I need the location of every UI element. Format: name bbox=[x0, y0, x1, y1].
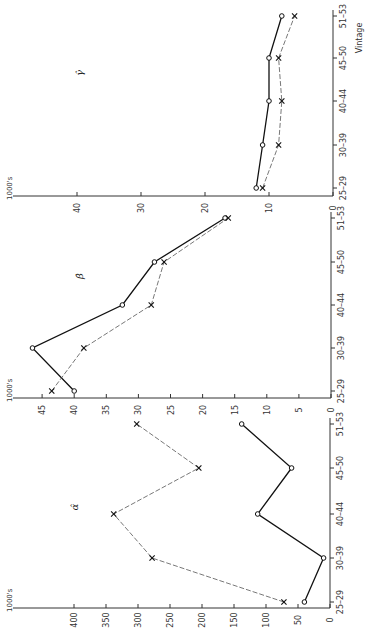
vintage-tick-label: 25–29 bbox=[336, 590, 345, 614]
circle-marker-icon bbox=[120, 303, 125, 308]
value-tick-label: 10 bbox=[265, 203, 274, 213]
x-marker-icon bbox=[111, 511, 116, 516]
vintage-tick-label: 51–53 bbox=[337, 206, 346, 230]
circle-marker-icon bbox=[260, 143, 265, 148]
rotated-line-chart-figure: 0102030401000's25–2930–3940–4445–5051–53… bbox=[0, 0, 367, 637]
value-tick-label: 100 bbox=[262, 612, 271, 627]
value-tick-label: 300 bbox=[134, 612, 143, 627]
circle-marker-icon bbox=[255, 512, 260, 517]
vintage-tick-label: 40–44 bbox=[337, 293, 346, 317]
value-tick-label: 350 bbox=[102, 612, 111, 627]
value-tick-label: 5 bbox=[295, 407, 304, 412]
circle-marker-icon bbox=[72, 389, 77, 394]
value-tick-label: 30 bbox=[134, 405, 143, 415]
vintage-tick-label: 51–53 bbox=[339, 4, 348, 28]
x-marker-icon bbox=[134, 421, 139, 426]
vintage-tick-label: 45–50 bbox=[339, 46, 348, 70]
circle-marker-icon bbox=[254, 186, 259, 191]
x-marker-icon bbox=[292, 13, 297, 18]
circle-marker-icon bbox=[321, 556, 326, 561]
vintage-tick-label: 30–39 bbox=[337, 336, 346, 360]
vintage-tick-label: 25–29 bbox=[337, 379, 346, 403]
circle-marker-icon bbox=[239, 422, 244, 427]
value-tick-label: 30 bbox=[137, 203, 146, 213]
value-tick-label: 20 bbox=[199, 405, 208, 415]
x-marker-icon bbox=[149, 555, 154, 560]
series-line-circle bbox=[242, 424, 324, 602]
panel-alpha: 0501001502002503003504001000's25–2930–39… bbox=[6, 412, 345, 628]
circle-marker-icon bbox=[152, 260, 157, 265]
circle-marker-icon bbox=[302, 600, 307, 605]
value-tick-label: 35 bbox=[102, 405, 111, 415]
x-marker-icon bbox=[276, 55, 281, 60]
vintage-tick-label: 30–39 bbox=[339, 133, 348, 157]
value-tick-label: 25 bbox=[167, 405, 176, 415]
vintage-tick-label: 51–53 bbox=[336, 412, 345, 436]
value-tick-label: 0 bbox=[326, 617, 335, 622]
x-marker-icon bbox=[81, 345, 86, 350]
vintage-axis-title: Vintage bbox=[355, 23, 364, 54]
circle-marker-icon bbox=[267, 56, 272, 61]
value-tick-label: 10 bbox=[263, 405, 272, 415]
panel-label-gamma: γ̂ bbox=[74, 70, 85, 76]
panel-gamma: 0102030401000's25–2930–3940–4445–5051–53… bbox=[6, 4, 348, 213]
panel-beta: 0510152025303540451000's25–2930–3940–444… bbox=[6, 206, 346, 415]
value-tick-label: 150 bbox=[230, 612, 239, 627]
circle-marker-icon bbox=[289, 466, 294, 471]
vintage-tick-label: 45–50 bbox=[337, 250, 346, 274]
unit-label: 1000's bbox=[6, 588, 14, 612]
value-tick-label: 15 bbox=[231, 405, 240, 415]
value-tick-label: 50 bbox=[294, 615, 303, 625]
circle-marker-icon bbox=[267, 99, 272, 104]
value-tick-label: 200 bbox=[198, 612, 207, 627]
value-tick-label: 250 bbox=[166, 612, 175, 627]
panel-label-alpha: α̂ bbox=[69, 503, 80, 510]
unit-label: 1000's bbox=[6, 378, 14, 402]
x-marker-icon bbox=[260, 185, 265, 190]
x-marker-icon bbox=[281, 599, 286, 604]
circle-marker-icon bbox=[30, 346, 35, 351]
vintage-tick-label: 25–29 bbox=[339, 176, 348, 200]
x-marker-icon bbox=[149, 302, 154, 307]
x-marker-icon bbox=[161, 259, 166, 264]
circle-marker-icon bbox=[280, 14, 285, 19]
x-marker-icon bbox=[276, 142, 281, 147]
series-line-circle bbox=[32, 218, 225, 391]
vintage-tick-label: 45–50 bbox=[336, 456, 345, 480]
chart-canvas: 0102030401000's25–2930–3940–4445–5051–53… bbox=[0, 0, 367, 637]
vintage-tick-label: 40–44 bbox=[339, 89, 348, 113]
value-tick-label: 400 bbox=[70, 612, 79, 627]
value-tick-label: 40 bbox=[73, 203, 82, 213]
vintage-tick-label: 30–39 bbox=[336, 546, 345, 570]
panel-label-beta: β̂ bbox=[74, 273, 85, 280]
value-tick-label: 20 bbox=[201, 203, 210, 213]
unit-label: 1000's bbox=[6, 176, 14, 200]
x-marker-icon bbox=[196, 465, 201, 470]
series-line-x bbox=[52, 218, 229, 391]
value-tick-label: 0 bbox=[327, 407, 336, 412]
value-tick-label: 45 bbox=[38, 405, 47, 415]
vintage-tick-label: 40–44 bbox=[336, 502, 345, 526]
value-tick-label: 40 bbox=[70, 405, 79, 415]
x-marker-icon bbox=[49, 388, 54, 393]
